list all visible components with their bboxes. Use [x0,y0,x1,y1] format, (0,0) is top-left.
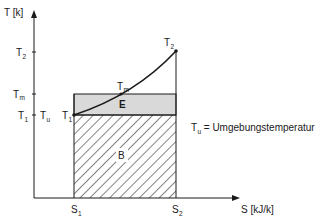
point-label-t2: T 2 [164,37,175,50]
y-tick-label-t1: T 1 [18,110,29,123]
point-label-tm: T m [117,81,129,93]
legend-tu: T u = Umgebungstemperatur [191,122,315,135]
svg-text:1: 1 [25,116,29,123]
svg-text:T: T [40,110,46,121]
svg-text:m: m [124,86,129,93]
svg-text:= Umgebungstemperatur: = Umgebungstemperatur [201,122,315,133]
y-tick-label-tu: T u [40,110,51,123]
point-t2 [174,49,178,53]
svg-text:1: 1 [69,116,73,123]
svg-text:T: T [164,37,170,48]
region-e-label: E [119,99,126,110]
svg-text:2: 2 [179,210,183,217]
svg-text:T: T [117,81,123,92]
point-tm [119,92,122,95]
svg-text:S: S [71,204,78,215]
svg-text:T: T [13,89,19,100]
x-axis-label: S [kJ/k] [241,204,274,215]
svg-text:S: S [172,204,179,215]
ts-diagram: T [k] S [kJ/k] T 2 T m T 1 T u S 1 S 2 T… [0,0,326,224]
svg-text:1: 1 [78,210,82,217]
svg-text:T: T [62,110,68,121]
x-tick-label-s2: S 2 [172,204,183,217]
y-axis-label: T [k] [4,7,23,18]
svg-text:T: T [18,110,24,121]
region-b-label: B [118,150,125,161]
y-tick-label-tm: T m [13,89,25,101]
svg-text:T: T [191,122,197,133]
svg-text:T: T [16,47,22,58]
x-tick-label-s1: S 1 [71,204,82,217]
svg-text:2: 2 [171,43,175,50]
y-tick-label-t2: T 2 [16,47,27,60]
svg-text:m: m [20,94,25,101]
svg-text:u: u [47,116,51,123]
point-t1 [72,113,76,117]
point-label-t1: T 1 [62,110,73,123]
svg-text:2: 2 [23,53,27,60]
